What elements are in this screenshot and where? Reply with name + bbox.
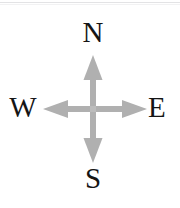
compass-label-south: S — [73, 164, 113, 193]
compass-figure: N E S W — [0, 0, 180, 208]
compass-label-north: N — [73, 18, 113, 47]
compass-label-east: E — [148, 93, 180, 122]
compass-label-west: W — [4, 93, 42, 122]
arrow-crossing-highlight — [90, 106, 96, 112]
